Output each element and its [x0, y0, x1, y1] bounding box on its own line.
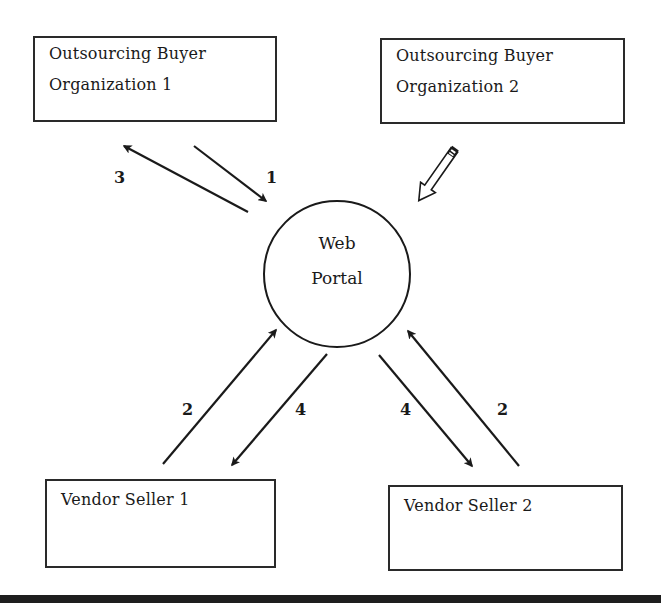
pencil-icon — [411, 143, 462, 206]
arrow-1-buyer-1-to-portal — [194, 146, 266, 201]
arrow-4-portal-to-seller-2 — [379, 355, 472, 466]
edge-label-2-left: 2 — [182, 400, 193, 419]
edge-label-1: 1 — [266, 168, 277, 187]
bottom-rule-divider — [0, 595, 661, 603]
edge-label-2-right: 2 — [497, 400, 508, 419]
edge-label-4-right: 4 — [400, 400, 411, 419]
diagram-canvas: Outsourcing Buyer Organization 1 Outsour… — [0, 0, 661, 605]
arrow-2-seller-2-to-portal — [408, 331, 519, 466]
arrow-4-portal-to-seller-1 — [232, 354, 327, 465]
web-portal-label-line-2: Portal — [277, 268, 397, 288]
arrow-3-portal-to-buyer-1 — [124, 146, 248, 212]
web-portal-label-line-1: Web — [277, 233, 397, 253]
connector-layer — [0, 0, 661, 605]
arrow-2-seller-1-to-portal — [163, 330, 276, 464]
edge-label-3: 3 — [114, 168, 125, 187]
edge-label-4-left: 4 — [295, 400, 306, 419]
